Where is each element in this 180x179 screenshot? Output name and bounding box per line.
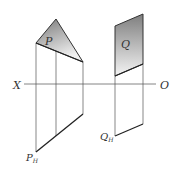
subscript-h: H	[107, 136, 114, 143]
plane-p-horizontal-trace	[36, 114, 83, 152]
plane-q-horizontal-trace	[115, 124, 143, 136]
subscript-h: H	[32, 157, 39, 164]
projection-diagram: X O P Q PH QH	[0, 0, 180, 179]
plane-q-label: Q	[121, 38, 130, 51]
axis-label-o: O	[160, 79, 169, 92]
plane-p-trace-label: PH	[25, 152, 39, 164]
plane-p-triangle	[36, 19, 83, 62]
axis-label-x: X	[12, 79, 22, 92]
plane-q-trace-label: QH	[100, 131, 114, 143]
plane-p-label: P	[44, 35, 53, 48]
